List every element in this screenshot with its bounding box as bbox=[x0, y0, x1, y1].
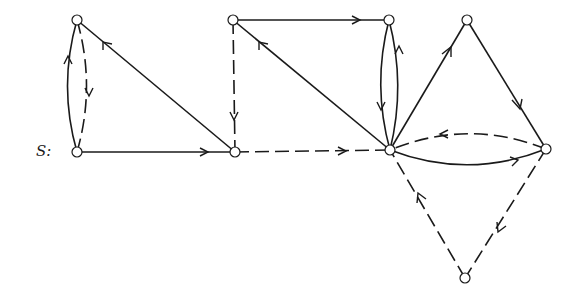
edge-b-a bbox=[77, 20, 235, 152]
edge-a-s bbox=[77, 20, 87, 152]
node-g bbox=[541, 144, 551, 154]
edge-e-g bbox=[390, 149, 546, 165]
graph-label-s: S: bbox=[36, 142, 51, 160]
edge-c-b bbox=[233, 20, 235, 152]
edge-b-e bbox=[235, 150, 390, 152]
node-d bbox=[384, 15, 394, 25]
node-a bbox=[72, 15, 82, 25]
arrowhead-g-e bbox=[440, 130, 448, 138]
node-h bbox=[460, 273, 470, 283]
arrowhead-e-d bbox=[395, 46, 403, 54]
edge-s-a bbox=[68, 20, 78, 152]
edge-g-e bbox=[390, 134, 546, 150]
edge-e-d bbox=[389, 20, 398, 150]
node-e bbox=[385, 145, 395, 155]
edge-e-f bbox=[390, 20, 467, 150]
edge-g-h bbox=[465, 149, 546, 278]
node-f bbox=[462, 15, 472, 25]
edge-d-e bbox=[381, 20, 390, 150]
directed-graph bbox=[0, 0, 581, 304]
node-c bbox=[228, 15, 238, 25]
edge-e-c bbox=[233, 20, 390, 150]
node-b bbox=[230, 147, 240, 157]
edge-f-g bbox=[467, 20, 546, 149]
edge-h-e bbox=[390, 150, 465, 278]
node-s bbox=[72, 147, 82, 157]
